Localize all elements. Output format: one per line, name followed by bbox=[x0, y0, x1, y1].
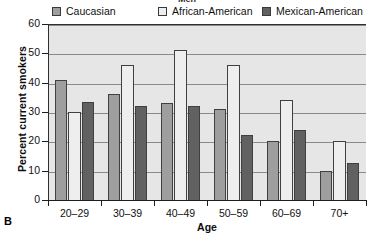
bar-group bbox=[207, 24, 260, 200]
bar bbox=[68, 112, 81, 200]
bar-group bbox=[48, 24, 101, 200]
legend-label: African-American bbox=[172, 5, 253, 17]
bar bbox=[161, 103, 174, 200]
bar-group bbox=[260, 24, 313, 200]
chart-title-text: Men bbox=[0, 0, 374, 4]
bar-group bbox=[313, 24, 366, 200]
x-tick-mark bbox=[207, 200, 208, 206]
chart-title-cropped: Men bbox=[0, 0, 374, 4]
x-tick-mark bbox=[48, 200, 49, 206]
bar-group bbox=[154, 24, 207, 200]
bar-series-container bbox=[48, 24, 366, 200]
x-tick-label: 70+ bbox=[313, 207, 366, 219]
x-tick-label: 20–29 bbox=[48, 207, 101, 219]
bar bbox=[108, 94, 121, 200]
legend-item-mexican-american: Mexican-American bbox=[262, 5, 363, 17]
x-tick-label: 60–69 bbox=[260, 207, 313, 219]
panel-label: B bbox=[4, 215, 12, 227]
x-tick-mark bbox=[313, 200, 314, 206]
bar bbox=[174, 50, 187, 200]
x-tick-mark bbox=[101, 200, 102, 206]
legend-item-caucasian: Caucasian bbox=[52, 5, 116, 17]
x-tick-mark bbox=[366, 200, 367, 206]
bar bbox=[82, 102, 95, 200]
bar bbox=[214, 109, 227, 200]
y-tick-label: 0 bbox=[16, 193, 40, 205]
bar bbox=[227, 65, 240, 200]
legend-swatch-icon bbox=[52, 7, 61, 16]
bar bbox=[135, 106, 148, 200]
legend-label: Caucasian bbox=[66, 5, 116, 17]
bar bbox=[320, 171, 333, 200]
y-axis-title: Percent current smokers bbox=[16, 24, 28, 194]
bar bbox=[121, 65, 134, 200]
x-axis-title: Age bbox=[48, 221, 366, 233]
bar bbox=[241, 135, 254, 200]
bar bbox=[333, 141, 346, 200]
legend-label: Mexican-American bbox=[276, 5, 363, 17]
bar bbox=[188, 106, 201, 200]
x-tick-label: 30–39 bbox=[101, 207, 154, 219]
bar bbox=[267, 141, 280, 200]
legend-item-african-american: African-American bbox=[158, 5, 253, 17]
bar bbox=[280, 100, 293, 200]
bar bbox=[347, 163, 360, 200]
bar bbox=[294, 130, 307, 200]
bar-group bbox=[101, 24, 154, 200]
x-tick-mark bbox=[154, 200, 155, 206]
legend-swatch-icon bbox=[158, 7, 167, 16]
legend-swatch-icon bbox=[262, 7, 271, 16]
x-tick-label: 50–59 bbox=[207, 207, 260, 219]
x-tick-mark bbox=[260, 200, 261, 206]
bar bbox=[55, 80, 68, 200]
x-tick-label: 40–49 bbox=[154, 207, 207, 219]
chart-legend: Caucasian African-American Mexican-Ameri… bbox=[0, 5, 374, 21]
